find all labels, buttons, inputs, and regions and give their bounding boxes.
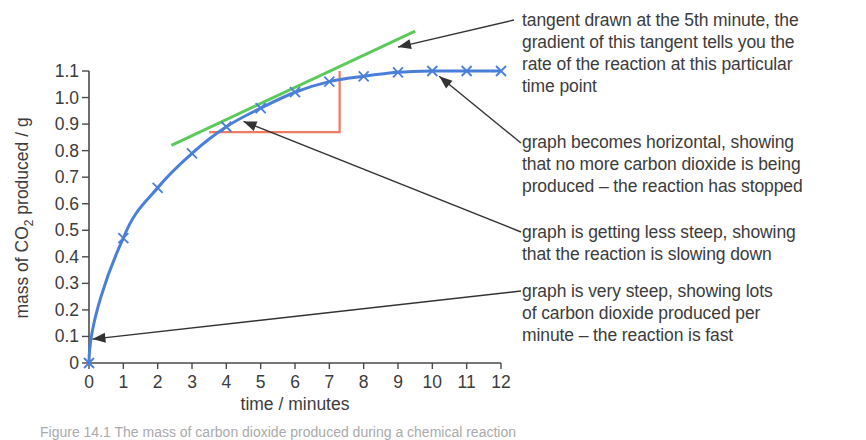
annotation-less-steep: graph is getting less steep, showing tha…	[522, 221, 796, 265]
data-point-marker	[221, 122, 231, 132]
y-tick-label: 0.5	[55, 220, 79, 240]
y-tick-label: 1.1	[55, 61, 79, 81]
y-tick-label: 0.1	[55, 326, 79, 346]
x-tick-label: 1	[118, 372, 128, 392]
y-tick-label: 0.9	[55, 114, 79, 134]
x-tick-label: 8	[359, 372, 369, 392]
x-tick-label: 11	[458, 372, 476, 392]
annotation-arrows	[92, 20, 521, 343]
y-tick-label: 0.8	[55, 141, 79, 161]
axes: 012345678910111200.10.20.30.40.50.60.70.…	[55, 61, 511, 392]
data-point-marker	[187, 148, 197, 158]
arrowhead-icon	[92, 333, 105, 343]
figure-caption: Figure 14.1 The mass of carbon dioxide p…	[40, 424, 516, 440]
tangent	[171, 31, 415, 145]
y-tick-label: 0	[69, 353, 79, 373]
x-tick-label: 10	[423, 372, 443, 392]
arrowhead-icon	[398, 39, 412, 49]
arrowhead-icon	[244, 121, 258, 130]
annotation-arrow-line	[398, 20, 514, 47]
y-tick-label: 0.3	[55, 273, 79, 293]
x-tick-label: 0	[84, 372, 94, 392]
x-tick-label: 4	[221, 372, 231, 392]
annotation-very-steep: graph is very steep, showing lots of car…	[522, 280, 773, 346]
x-tick-label: 7	[324, 372, 334, 392]
annotation-horizontal: graph becomes horizontal, showing that n…	[522, 131, 803, 197]
tangent-line	[171, 31, 415, 145]
data-series	[84, 66, 506, 368]
annotation-arrow-line	[439, 76, 521, 143]
annotation-tangent: tangent drawn at the 5th minute, the gra…	[522, 9, 799, 97]
co2-curve	[89, 71, 501, 363]
y-tick-label: 0.2	[55, 300, 79, 320]
arrowhead-icon	[439, 76, 452, 88]
x-tick-label: 12	[491, 372, 510, 392]
annotation-arrow-line	[92, 291, 521, 339]
y-tick-label: 0.4	[55, 247, 80, 267]
x-axis-title: time / minutes	[241, 394, 350, 414]
x-tick-label: 6	[290, 372, 300, 392]
x-tick-label: 9	[393, 372, 403, 392]
x-tick-label: 5	[256, 372, 266, 392]
data-point-marker	[153, 183, 163, 193]
x-tick-label: 3	[187, 372, 197, 392]
x-tick-label: 2	[153, 372, 163, 392]
y-axis-title: mass of CO2 produced / g	[12, 117, 36, 318]
y-tick-label: 0.7	[55, 167, 79, 187]
annotation-arrow-line	[244, 121, 522, 232]
y-tick-label: 1.0	[55, 88, 80, 108]
y-tick-label: 0.6	[55, 194, 79, 214]
